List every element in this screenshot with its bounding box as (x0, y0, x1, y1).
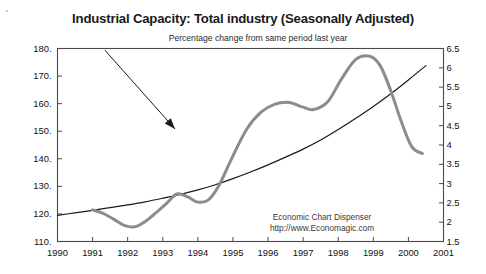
ytick-label-right-5: 5 (447, 100, 477, 111)
chart-figure: Industrial Capacity: Total industry (Sea… (0, 0, 486, 274)
xtick-label-1993: 1993 (143, 247, 183, 258)
annotation-arrow-line-0 (105, 50, 175, 129)
ytick-label-left-180: 180. (18, 43, 52, 54)
xtick-label-1996: 1996 (248, 247, 288, 258)
ytick-label-left-150: 150. (18, 125, 52, 136)
ytick-label-right-4_5: 4.5 (447, 120, 477, 131)
xtick-label-1997: 1997 (283, 247, 323, 258)
ytick-label-left-140: 140. (18, 153, 52, 164)
xtick-label-1995: 1995 (213, 247, 253, 258)
ytick-label-left-130: 130. (18, 180, 52, 191)
ytick-label-left-170: 170. (18, 70, 52, 81)
series-line-1 (93, 56, 423, 227)
ytick-label-right-1_5: 1.5 (447, 236, 477, 247)
data-series-layer (58, 56, 426, 227)
ytick-label-right-5_5: 5.5 (447, 81, 477, 92)
ytick-label-left-120: 120. (18, 208, 52, 219)
plot-canvas (0, 0, 486, 274)
xtick-label-2000: 2000 (388, 247, 428, 258)
xtick-label-1991: 1991 (73, 247, 113, 258)
ytick-label-right-2: 2 (447, 216, 477, 227)
xtick-label-1998: 1998 (318, 247, 358, 258)
xtick-label-1994: 1994 (178, 247, 218, 258)
xtick-label-1999: 1999 (353, 247, 393, 258)
xtick-label-1992: 1992 (108, 247, 148, 258)
ytick-label-left-110: 110. (18, 236, 52, 247)
ytick-label-left-160: 160. (18, 98, 52, 109)
ytick-label-right-4: 4 (447, 139, 477, 150)
ytick-label-right-3_5: 3.5 (447, 158, 477, 169)
ytick-label-right-3: 3 (447, 178, 477, 189)
ytick-label-right-2_5: 2.5 (447, 197, 477, 208)
ytick-label-right-6_5: 6.5 (447, 43, 477, 54)
xtick-label-1990: 1990 (38, 247, 78, 258)
xtick-label-2001: 2001 (424, 247, 464, 258)
ytick-label-right-6: 6 (447, 62, 477, 73)
annotation-layer (105, 50, 175, 129)
